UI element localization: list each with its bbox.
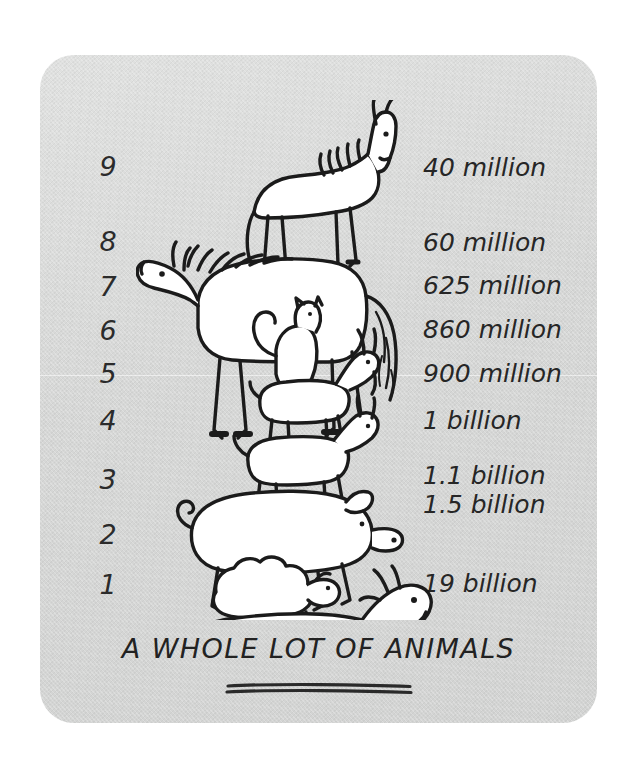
animal-stack-illustration <box>136 100 436 620</box>
population-label-goat: 860 million <box>423 317 562 342</box>
population-label-sheep: 1.1 billion <box>423 463 546 488</box>
population-label-horse: 60 million <box>423 230 546 255</box>
population-label-pig: 1 billion <box>423 408 522 433</box>
population-label-donkey: 40 million <box>423 155 546 180</box>
rank-number-4: 4 <box>85 407 131 434</box>
population-label-cow: 1.5 billion <box>423 492 546 517</box>
rank-number-8: 8 <box>85 228 131 255</box>
infographic-card: 9 8 7 6 5 4 3 2 1 40 million 60 million … <box>40 55 597 723</box>
rank-number-3: 3 <box>85 466 131 493</box>
rank-number-1: 1 <box>85 571 131 598</box>
population-label-cat: 625 million <box>423 273 562 298</box>
rank-number-6: 6 <box>85 317 131 344</box>
title-underline <box>40 682 597 700</box>
chart-title: A WHOLE LOT OF ANIMALS <box>40 633 597 664</box>
rank-number-7: 7 <box>85 273 131 300</box>
rank-number-2: 2 <box>85 521 131 548</box>
rank-number-9: 9 <box>85 153 131 180</box>
population-label-dog: 900 million <box>423 361 562 386</box>
donkey-illustration <box>247 100 396 274</box>
rank-number-5: 5 <box>85 360 131 387</box>
population-label-chicken: 19 billion <box>423 571 538 596</box>
